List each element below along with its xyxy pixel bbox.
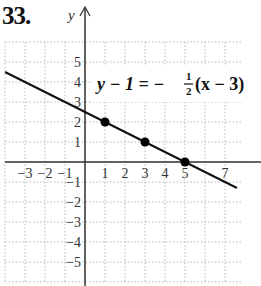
x-tick-label: 2 (122, 166, 129, 181)
svg-text:y − 1 = −: y − 1 = − (95, 74, 164, 94)
eq-lhs: y − 1 = − (95, 74, 164, 94)
y-tick-label: −3 (66, 215, 81, 230)
x-tick-label: −3 (18, 166, 33, 181)
y-axis-label: y (66, 7, 75, 23)
x-tick-label: 7 (222, 166, 229, 181)
y-tick-label: 4 (74, 75, 81, 90)
plotted-point (101, 118, 110, 127)
plotted-point (181, 158, 190, 167)
coordinate-graph: y −3−2−1123457 54321−1−2−3−4−5 y − 1 = −… (0, 0, 261, 286)
eq-frac-den: 2 (186, 85, 192, 97)
plotted-point (141, 138, 150, 147)
y-tick-label: 2 (74, 115, 81, 130)
y-tick-label: −5 (66, 255, 81, 270)
x-tick-label: 1 (102, 166, 109, 181)
eq-rhs: (x − 3) (195, 74, 244, 95)
y-tick-label: −2 (66, 195, 81, 210)
y-tick-label: 5 (74, 55, 81, 70)
x-tick-label: 4 (162, 166, 169, 181)
x-tick-label: 5 (182, 166, 189, 181)
y-tick-label: −1 (66, 175, 81, 190)
y-tick-label: −4 (66, 235, 81, 250)
x-tick-label: −2 (38, 166, 53, 181)
eq-frac-num: 1 (186, 70, 192, 82)
x-tick-label: 3 (142, 166, 149, 181)
y-tick-label: 1 (74, 135, 81, 150)
